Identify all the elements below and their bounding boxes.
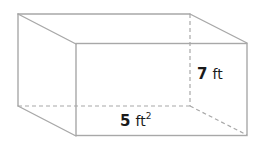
height-value: 7 bbox=[197, 65, 207, 83]
base-area-exponent: 2 bbox=[146, 111, 152, 121]
base-area-unit: ft bbox=[136, 113, 146, 129]
depth-top-left-edge bbox=[18, 14, 76, 44]
depth-bottom-left-edge bbox=[18, 106, 76, 136]
depth-top-right-edge bbox=[190, 14, 247, 43]
base-area-label: 5 ft2 bbox=[120, 111, 151, 130]
depth-bottom-right-hidden-edge bbox=[190, 106, 247, 135]
height-label: 7 ft bbox=[197, 64, 223, 83]
height-unit: ft bbox=[213, 66, 223, 82]
base-area-value: 5 bbox=[120, 112, 130, 130]
